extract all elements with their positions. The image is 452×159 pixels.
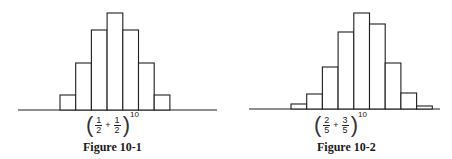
fraction-denominator: 5 xyxy=(323,126,330,135)
fraction-a: 25 xyxy=(323,116,330,135)
histogram-bar xyxy=(307,94,323,109)
fraction-denominator: 2 xyxy=(95,126,102,135)
fraction-denominator: 5 xyxy=(342,126,349,135)
histogram-bar xyxy=(154,95,170,110)
histogram-figure-10-2 xyxy=(249,13,440,109)
fraction-numerator: 1 xyxy=(114,116,121,126)
plus-sign: + xyxy=(105,120,110,130)
plus-sign: + xyxy=(333,120,338,130)
caption-figure-10-2: Figure 10-2 xyxy=(317,140,376,155)
fraction-numerator: 2 xyxy=(323,116,330,126)
histogram-bar xyxy=(123,30,139,110)
formula-figure-10-1: (12+12)10 xyxy=(86,112,139,138)
histogram-bar xyxy=(139,63,155,110)
histogram-figure-10-1 xyxy=(18,13,217,110)
exponent: 10 xyxy=(130,110,139,119)
right-paren: ) xyxy=(351,112,358,137)
caption-figure-10-1: Figure 10-1 xyxy=(83,140,142,155)
histogram-bar xyxy=(338,32,354,109)
histogram-bar xyxy=(76,63,92,110)
exponent: 10 xyxy=(358,110,367,119)
histogram-bar xyxy=(417,106,433,109)
left-paren: ( xyxy=(314,112,321,137)
fraction-b: 12 xyxy=(114,116,121,135)
histogram-bar xyxy=(401,93,417,109)
histogram-bar xyxy=(60,95,76,110)
formula-figure-10-2: (25+35)10 xyxy=(314,112,367,138)
histogram-bar xyxy=(322,67,338,109)
histogram-bar xyxy=(385,63,401,109)
fraction-a: 12 xyxy=(95,116,102,135)
histogram-bar xyxy=(291,104,307,109)
fraction-denominator: 2 xyxy=(114,126,121,135)
fraction-b: 35 xyxy=(342,116,349,135)
histogram-bar xyxy=(107,13,123,110)
fraction-numerator: 3 xyxy=(342,116,349,126)
histogram-bar xyxy=(354,13,370,109)
right-paren: ) xyxy=(123,112,130,137)
left-paren: ( xyxy=(86,112,93,137)
histogram-bar xyxy=(370,24,386,109)
histogram-canvas xyxy=(0,0,452,159)
histogram-bar xyxy=(91,30,107,110)
fraction-numerator: 1 xyxy=(95,116,102,126)
